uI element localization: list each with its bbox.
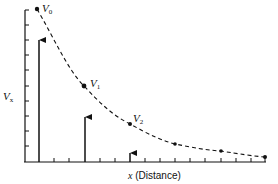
point-v2 xyxy=(128,122,132,126)
point-label-v1: V1 xyxy=(90,78,100,89)
y-axis-label-var: V xyxy=(3,90,10,102)
v1-sub: 1 xyxy=(97,83,101,91)
v2-sub: 2 xyxy=(140,118,144,126)
data-points xyxy=(35,7,267,159)
decay-curve xyxy=(37,9,265,157)
x-axis-label-var: x xyxy=(128,170,132,181)
decay-diagram: Vx V0 V1 V2 x (Distance) xyxy=(0,0,278,184)
point-label-v0: V0 xyxy=(42,3,52,14)
x-axis-label-text: (Distance) xyxy=(135,170,181,181)
y-axis-label-sub: x xyxy=(10,96,14,104)
point-v0 xyxy=(35,7,39,11)
y-axis-label: Vx xyxy=(3,91,13,102)
v1-var: V xyxy=(90,77,97,89)
magnitude-arrows xyxy=(39,40,130,162)
point-label-v2: V2 xyxy=(133,113,143,124)
diagram-canvas xyxy=(0,0,278,184)
x-axis-label: x (Distance) xyxy=(128,171,181,181)
point-6 xyxy=(263,155,267,159)
point-5 xyxy=(219,149,223,153)
v0-sub: 0 xyxy=(49,8,53,16)
y-axis xyxy=(25,10,29,162)
v2-var: V xyxy=(133,112,140,124)
point-4 xyxy=(173,142,177,146)
x-axis xyxy=(24,157,266,162)
point-v1 xyxy=(82,84,87,89)
v0-var: V xyxy=(42,2,49,14)
